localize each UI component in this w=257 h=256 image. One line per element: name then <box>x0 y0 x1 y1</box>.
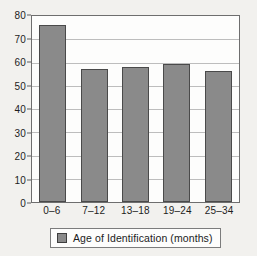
y-axis-label-30: 30 <box>14 127 26 138</box>
bar <box>122 67 149 202</box>
y-axis-label-80: 80 <box>14 10 26 21</box>
y-axis-label-60: 60 <box>14 57 26 68</box>
y-axis-label-40: 40 <box>14 104 26 115</box>
bar <box>81 69 108 202</box>
y-axis-label-20: 20 <box>14 151 26 162</box>
bar <box>205 71 232 202</box>
x-axis-label-13-18: 13–18 <box>115 205 157 216</box>
plot-area <box>31 15 240 203</box>
bar <box>39 25 66 202</box>
y-axis-label-10: 10 <box>14 174 26 185</box>
y-axis-label-50: 50 <box>14 80 26 91</box>
x-axis-label-19-24: 19–24 <box>156 205 198 216</box>
y-axis-label-70: 70 <box>14 33 26 44</box>
x-axis-label-0-6: 0–6 <box>31 205 73 216</box>
bar-slot <box>156 16 197 202</box>
bar-slot <box>115 16 156 202</box>
chart-legend: Age of Identification (months) <box>50 228 221 248</box>
x-axis: 0–6 7–12 13–18 19–24 25–34 <box>31 205 240 221</box>
bar-slot <box>32 16 73 202</box>
y-axis-label-0: 0 <box>20 198 26 209</box>
x-axis-label-25-34: 25–34 <box>198 205 240 216</box>
bar-slot <box>73 16 114 202</box>
legend-swatch-icon <box>57 233 67 243</box>
x-axis-label-7-12: 7–12 <box>73 205 115 216</box>
bar-chart-figure: 80 70 60 50 40 30 20 10 0 <box>0 0 257 256</box>
bar-slot <box>198 16 239 202</box>
y-axis: 80 70 60 50 40 30 20 10 0 <box>0 15 31 203</box>
bar-series <box>32 16 239 202</box>
bar <box>163 64 190 202</box>
legend-label: Age of Identification (months) <box>73 232 213 244</box>
